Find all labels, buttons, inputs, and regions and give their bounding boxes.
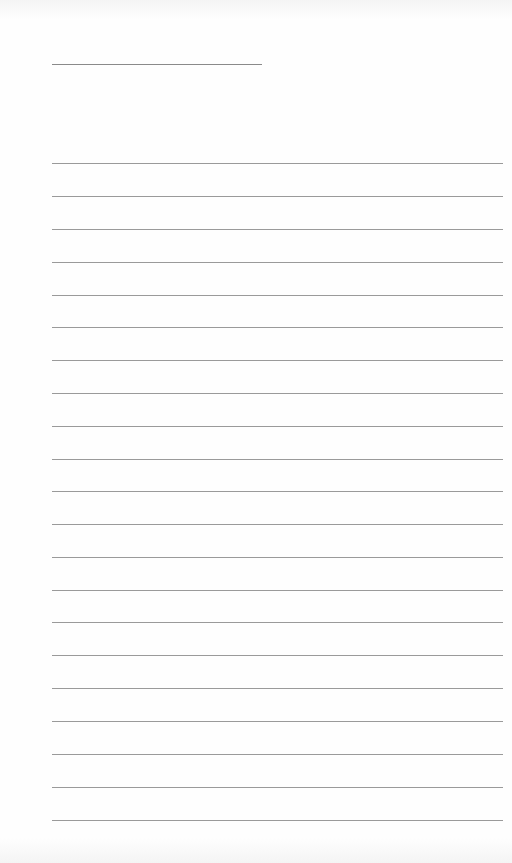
- ruled-line: [52, 754, 503, 755]
- ruled-line: [52, 787, 503, 788]
- ruled-line: [52, 163, 503, 164]
- ruled-line: [52, 262, 503, 263]
- ruled-line: [52, 196, 503, 197]
- ruled-line: [52, 557, 503, 558]
- ruled-line: [52, 229, 503, 230]
- ruled-line: [52, 295, 503, 296]
- ruled-line: [52, 820, 503, 821]
- bleed-through-top: [0, 0, 512, 20]
- ruled-line: [52, 360, 503, 361]
- ruled-line: [52, 622, 503, 623]
- lined-page: [0, 0, 512, 863]
- ruled-line: [52, 590, 503, 591]
- ruled-line: [52, 688, 503, 689]
- ruled-line: [52, 721, 503, 722]
- ruled-line: [52, 327, 503, 328]
- ruled-line: [52, 524, 503, 525]
- ruled-line: [52, 655, 503, 656]
- ruled-line: [52, 393, 503, 394]
- bleed-through-bottom: [0, 838, 512, 863]
- ruled-line: [52, 459, 503, 460]
- ruled-line: [52, 426, 503, 427]
- title-line: [52, 64, 262, 65]
- ruled-line: [52, 491, 503, 492]
